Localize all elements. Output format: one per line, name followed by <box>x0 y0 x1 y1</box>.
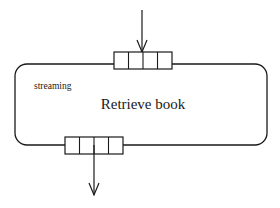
stereotype-label: streaming <box>34 81 72 91</box>
activity-diagram: streaming Retrieve book <box>0 0 280 208</box>
action-name-label: Retrieve book <box>101 96 186 112</box>
incoming-flow-arrow[interactable] <box>137 10 147 52</box>
input-pin[interactable] <box>114 52 172 69</box>
